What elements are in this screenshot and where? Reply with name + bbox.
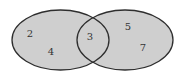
venn-diagram: 2 4 3 5 7 [0, 0, 180, 77]
element-left-only: 4 [48, 46, 54, 57]
element-intersection: 3 [87, 31, 93, 42]
element-right-only: 5 [125, 21, 131, 32]
element-left-only: 2 [27, 28, 33, 39]
element-right-only: 7 [140, 42, 146, 53]
